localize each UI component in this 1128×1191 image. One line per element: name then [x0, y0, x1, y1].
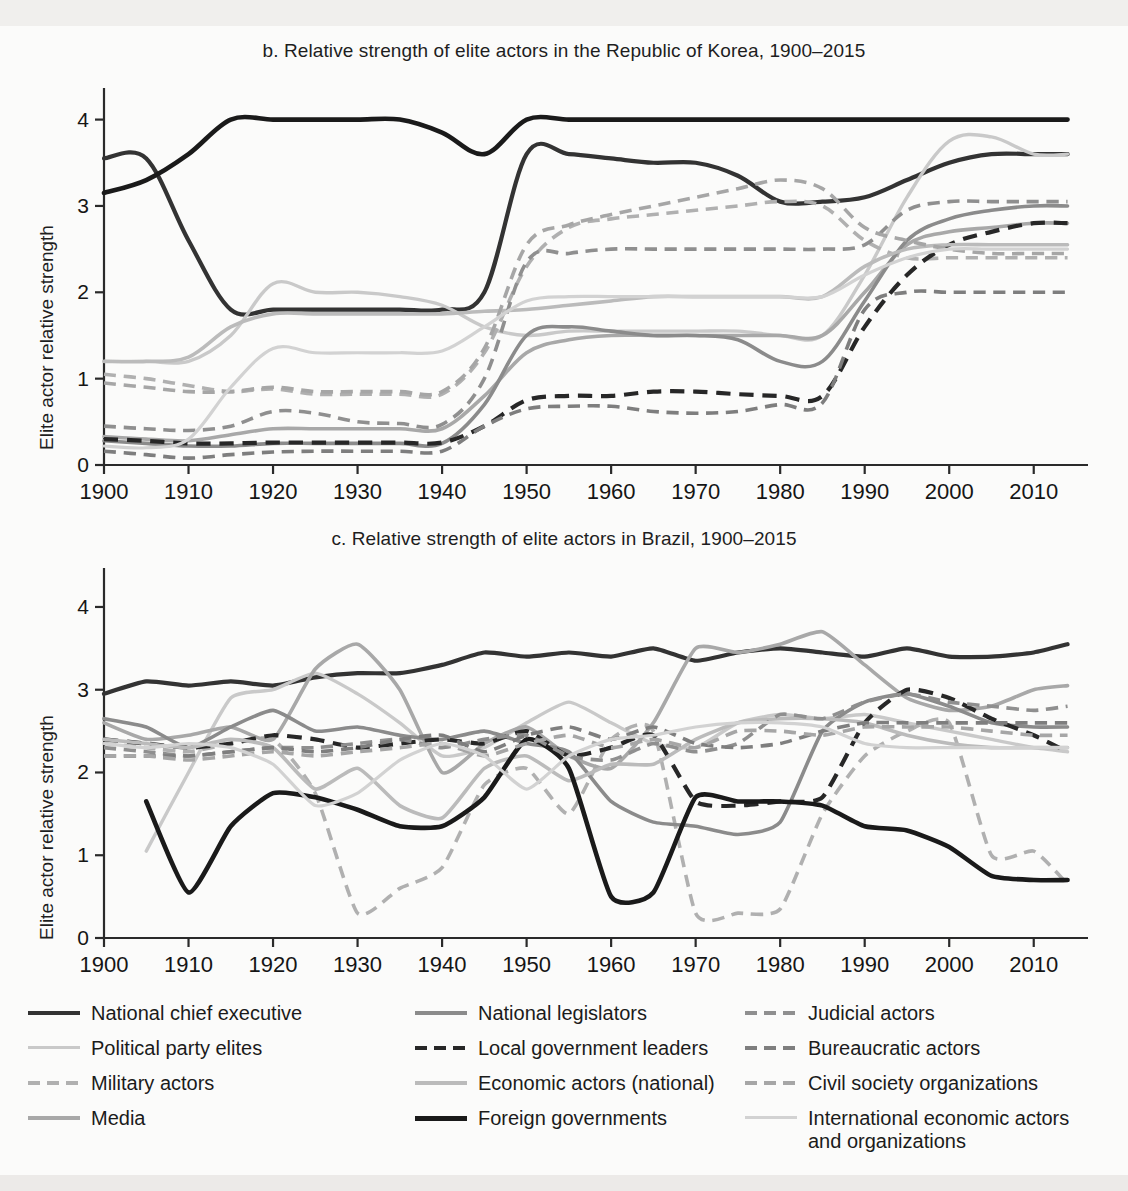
y-tick-label: 3	[77, 194, 89, 217]
legend-swatch-solid-icon	[415, 1005, 467, 1023]
x-tick-label: 1990	[840, 479, 889, 504]
legend-item-label: Judicial actors	[808, 1000, 935, 1025]
legend-item[interactable]: Bureaucratic actors	[745, 1035, 1105, 1070]
panel-brazil: c. Relative strength of elite actors in …	[0, 520, 1128, 1000]
x-tick-label: 1920	[249, 479, 298, 504]
legend-item[interactable]: Judicial actors	[745, 1000, 1105, 1035]
x-tick-label: 1930	[333, 952, 382, 977]
x-tick-label: 1980	[756, 479, 805, 504]
x-tick-label: 1940	[418, 479, 467, 504]
legend-item-label: Political party elites	[91, 1035, 262, 1060]
x-tick-label: 1960	[587, 479, 636, 504]
y-tick-label: 0	[77, 453, 89, 476]
legend-column-3: Judicial actorsBureaucratic actorsCivil …	[745, 1000, 1105, 1140]
x-tick-label: 2010	[1009, 952, 1058, 977]
series-line	[104, 244, 1068, 361]
x-tick-label: 1900	[80, 479, 129, 504]
y-tick-label: 4	[77, 108, 89, 131]
y-tick-label: 1	[77, 843, 89, 866]
series-line	[104, 644, 1068, 694]
legend-swatch-solid-icon	[415, 1075, 467, 1093]
y-tick-label: 3	[77, 678, 89, 701]
panel-korea: b. Relative strength of elite actors in …	[0, 30, 1128, 510]
legend-swatch-dashed-icon	[745, 1075, 797, 1093]
legend-item[interactable]: Civil society organizations	[745, 1070, 1105, 1105]
series-line	[104, 180, 1068, 395]
x-tick-label: 1940	[418, 952, 467, 977]
legend-swatch-dashed-icon	[415, 1040, 467, 1058]
legend-item[interactable]: National chief executive	[28, 1000, 418, 1035]
legend-item[interactable]: Political party elites	[28, 1035, 418, 1070]
legend-item-label: Media	[91, 1105, 145, 1130]
series-line	[104, 206, 1068, 447]
legend-item-label: Foreign governments	[478, 1105, 667, 1130]
legend-swatch-solid-icon	[28, 1005, 80, 1023]
x-tick-label: 1910	[164, 479, 213, 504]
legend-swatch-dashed-icon	[28, 1075, 80, 1093]
figure-page: b. Relative strength of elite actors in …	[0, 0, 1128, 1191]
y-tick-label: 4	[77, 595, 89, 618]
x-tick-label: 2000	[925, 952, 974, 977]
legend-swatch-solid-icon	[28, 1040, 80, 1058]
scan-edge-top	[0, 0, 1128, 26]
legend-item[interactable]: Media	[28, 1105, 418, 1140]
legend-item[interactable]: National legislators	[415, 1000, 745, 1035]
figure-legend: National chief executivePolitical party …	[28, 1000, 1108, 1175]
legend-swatch-solid-icon	[415, 1110, 467, 1128]
legend-swatch-solid-icon	[28, 1110, 80, 1128]
legend-item[interactable]: Local government leaders	[415, 1035, 745, 1070]
legend-item[interactable]: International economic actors and organi…	[745, 1105, 1105, 1140]
x-tick-label: 1950	[502, 952, 551, 977]
x-tick-label: 1910	[164, 952, 213, 977]
x-tick-label: 1920	[249, 952, 298, 977]
panel-korea-plot: 0123419001910192019301940195019601970198…	[0, 30, 1128, 510]
legend-item-label: National legislators	[478, 1000, 647, 1025]
legend-item[interactable]: Foreign governments	[415, 1105, 745, 1140]
x-tick-label: 1990	[840, 952, 889, 977]
x-tick-label: 1900	[80, 952, 129, 977]
scan-edge-bottom	[0, 1175, 1128, 1191]
x-tick-label: 1960	[587, 952, 636, 977]
legend-item-label: Military actors	[91, 1070, 214, 1095]
panel-brazil-plot: 0123419001910192019301940195019601970198…	[0, 520, 1128, 1000]
legend-item-label: Bureaucratic actors	[808, 1035, 980, 1060]
y-tick-label: 0	[77, 926, 89, 949]
y-tick-label: 1	[77, 367, 89, 390]
legend-column-2: National legislatorsLocal government lea…	[415, 1000, 745, 1140]
x-tick-label: 1970	[671, 952, 720, 977]
legend-item-label: Civil society organizations	[808, 1070, 1038, 1095]
legend-item-label: International economic actors and organi…	[808, 1105, 1069, 1153]
y-tick-label: 2	[77, 760, 89, 783]
legend-item[interactable]: Military actors	[28, 1070, 418, 1105]
series-line	[104, 223, 1068, 444]
x-tick-label: 1970	[671, 479, 720, 504]
series-line	[146, 739, 1067, 903]
legend-swatch-dashed-icon	[745, 1005, 797, 1023]
x-tick-label: 2010	[1009, 479, 1058, 504]
x-tick-label: 1950	[502, 479, 551, 504]
x-tick-label: 2000	[925, 479, 974, 504]
legend-swatch-dashed-icon	[745, 1040, 797, 1058]
legend-item-label: National chief executive	[91, 1000, 302, 1025]
legend-swatch-solid-icon	[745, 1110, 797, 1128]
x-tick-label: 1980	[756, 952, 805, 977]
y-tick-label: 2	[77, 280, 89, 303]
x-tick-label: 1930	[333, 479, 382, 504]
legend-item-label: Economic actors (national)	[478, 1070, 715, 1095]
legend-item-label: Local government leaders	[478, 1035, 708, 1060]
legend-item[interactable]: Economic actors (national)	[415, 1070, 745, 1105]
legend-column-1: National chief executivePolitical party …	[28, 1000, 418, 1140]
